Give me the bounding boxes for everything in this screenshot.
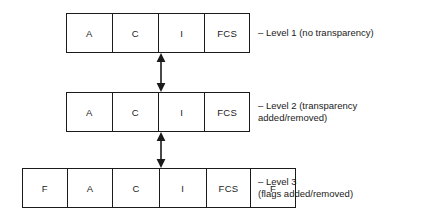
frame-cell-level1-fcs: FCS: [205, 14, 249, 52]
double-headed-vertical-arrow-icon-level2-level3: [155, 132, 167, 168]
frame-cell-level2-fcs: FCS: [205, 93, 249, 131]
frame-cell-level1-information: I: [159, 14, 205, 52]
level-annotation-level-2: – Level 2 (transparency added/removed): [258, 100, 357, 123]
frame-cell-level3-fcs: FCS: [207, 169, 252, 207]
frame-cell-level1-address: A: [67, 14, 113, 52]
level-annotation-level-3: – Level 3 (flags added/removed): [258, 176, 353, 199]
frame-level-diagram: A C I FCS A C I FCS F A C I FCS F – L: [0, 0, 434, 222]
frame-cell-level3-control: C: [113, 169, 160, 207]
frame-cell-level2-control: C: [113, 93, 159, 131]
frame-cell-level2-information: I: [159, 93, 205, 131]
frame-cell-level2-address: A: [67, 93, 113, 131]
frame-row-level-3: F A C I FCS F: [22, 168, 296, 208]
double-headed-vertical-arrow-icon-level1-level2: [155, 53, 167, 92]
level-annotation-level-1: – Level 1 (no transparency): [258, 27, 374, 39]
frame-cell-level3-information: I: [160, 169, 207, 207]
frame-row-level-2: A C I FCS: [66, 92, 250, 132]
frame-cell-level3-opening-flag: F: [23, 169, 68, 207]
frame-cell-level1-control: C: [113, 14, 159, 52]
frame-row-level-1: A C I FCS: [66, 13, 250, 53]
frame-cell-level3-address: A: [68, 169, 114, 207]
